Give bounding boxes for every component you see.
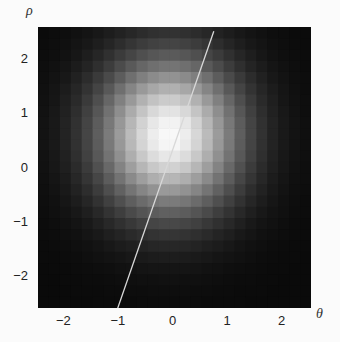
heatmap-cell (256, 106, 268, 118)
heatmap-cell (235, 61, 247, 73)
heatmap-cell (300, 297, 311, 308)
heatmap-cell (278, 162, 290, 174)
heatmap-cell (267, 94, 279, 106)
heatmap-cell (147, 72, 159, 84)
heatmap-cell (213, 139, 225, 151)
heatmap-cell (180, 83, 192, 95)
heatmap-cell (60, 218, 72, 230)
heatmap-cell (256, 263, 268, 275)
heatmap-cell (38, 83, 50, 95)
heatmap-cell (104, 106, 116, 118)
heatmap-cell (104, 274, 116, 286)
heatmap-cell (125, 61, 137, 73)
heatmap-cell (38, 297, 50, 308)
heatmap-cell (202, 162, 214, 174)
heatmap-cell (300, 286, 311, 298)
heatmap-cell (93, 151, 105, 163)
heatmap-cell (82, 117, 94, 129)
heatmap-cell (93, 128, 105, 140)
heatmap-cell (93, 117, 105, 129)
heatmap-cell (71, 196, 83, 208)
heatmap-cell (169, 49, 181, 61)
heatmap-cell (245, 106, 257, 118)
heatmap-cell (235, 286, 247, 298)
heatmap-cell (49, 274, 61, 286)
y-tick-label: 1 (4, 106, 28, 119)
heatmap-cell (245, 83, 257, 95)
heatmap-cell (104, 38, 116, 50)
heatmap-cell (82, 72, 94, 84)
heatmap-cell (289, 49, 301, 61)
heatmap-cell (245, 61, 257, 73)
heatmap-cell (60, 27, 72, 39)
heatmap-cell (169, 162, 181, 174)
heatmap-cell (125, 184, 137, 196)
heatmap-cell (235, 72, 247, 84)
heatmap-cell (49, 218, 61, 230)
heatmap-cell (169, 241, 181, 253)
heatmap-cell (125, 139, 137, 151)
heatmap-cell (180, 139, 192, 151)
heatmap-cell (49, 173, 61, 185)
heatmap-cell (169, 117, 181, 129)
y-tick-label: 0 (4, 161, 28, 174)
heatmap-cell (114, 184, 126, 196)
heatmap-cell (93, 173, 105, 185)
heatmap-cell (136, 139, 148, 151)
heatmap-cell (256, 117, 268, 129)
heatmap-cell (38, 61, 50, 73)
heatmap-cell (191, 286, 203, 298)
heatmap-cell (71, 173, 83, 185)
heatmap-cell (213, 83, 225, 95)
heatmap-cell (125, 229, 137, 241)
heatmap-cell (104, 49, 116, 61)
heatmap-cell (147, 252, 159, 264)
heatmap-cell (256, 38, 268, 50)
heatmap-cell (158, 151, 170, 163)
heatmap-cell (169, 229, 181, 241)
heatmap-cell (256, 61, 268, 73)
heatmap-cell (289, 128, 301, 140)
heatmap-cell (38, 38, 50, 50)
heatmap-cell (71, 38, 83, 50)
heatmap-cell (300, 94, 311, 106)
heatmap-cell (136, 117, 148, 129)
heatmap-cell (114, 173, 126, 185)
heatmap-cell (60, 72, 72, 84)
heatmap-cell (38, 128, 50, 140)
heatmap-cell (191, 263, 203, 275)
heatmap-cell (136, 106, 148, 118)
heatmap-cell (71, 207, 83, 219)
heatmap-cell (267, 83, 279, 95)
heatmap-cell (104, 263, 116, 275)
heatmap-cell (235, 162, 247, 174)
heatmap-cell (224, 297, 236, 308)
heatmap-cell (202, 207, 214, 219)
heatmap-cell (245, 263, 257, 275)
heatmap-cell (136, 151, 148, 163)
heatmap-cell (93, 274, 105, 286)
heatmap-cell (191, 173, 203, 185)
heatmap-cell (38, 229, 50, 241)
heatmap-cell (125, 173, 137, 185)
y-tick-label: 2 (4, 52, 28, 65)
heatmap-cell (104, 151, 116, 163)
heatmap-cell (245, 72, 257, 84)
heatmap-cell (235, 117, 247, 129)
heatmap-cell (71, 241, 83, 253)
heatmap-cell (49, 151, 61, 163)
heatmap-cell (136, 38, 148, 50)
heatmap-cell (202, 297, 214, 308)
heatmap-cell (60, 241, 72, 253)
heatmap-cell (136, 61, 148, 73)
heatmap-cell (235, 83, 247, 95)
heatmap-cell (267, 252, 279, 264)
heatmap-cell (213, 207, 225, 219)
heatmap-cell (147, 94, 159, 106)
heatmap-cell (158, 252, 170, 264)
heatmap-cell (213, 94, 225, 106)
heatmap-cell (267, 128, 279, 140)
heatmap-cell (202, 94, 214, 106)
heatmap-cell (93, 286, 105, 298)
heatmap-cell (158, 61, 170, 73)
